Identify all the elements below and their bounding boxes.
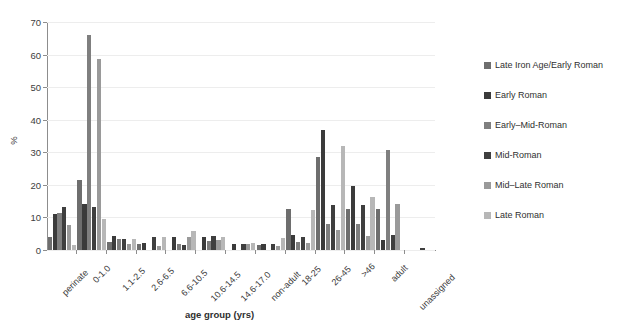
legend-item: Early Roman (484, 80, 630, 110)
x-label-cell: unassigned (405, 252, 435, 312)
bar (211, 236, 215, 250)
y-tick-mark (43, 250, 47, 251)
bar (127, 244, 131, 250)
y-tick-label: 40 (30, 114, 41, 125)
y-tick-label: 60 (30, 49, 41, 60)
y-tick-label: 10 (30, 212, 41, 223)
bar (386, 150, 390, 250)
legend-label: Early Roman (495, 90, 547, 100)
x-label-cell: 6.6-10.5 (166, 252, 196, 312)
x-axis-labels: perinate0-1.01.1-2.52.6-6.56.6-10.510.6-… (47, 252, 435, 312)
bar (391, 235, 395, 250)
bar (87, 35, 91, 250)
bar (276, 246, 280, 250)
bar (296, 242, 300, 250)
bar (142, 243, 146, 250)
legend-swatch (484, 92, 491, 99)
bar (53, 214, 57, 250)
bar (202, 237, 206, 250)
plot-area: 010203040506070 (47, 22, 435, 250)
bar-group (316, 22, 346, 250)
bar (137, 244, 141, 250)
legend-swatch (484, 182, 491, 189)
x-label-cell: 26-45 (316, 252, 346, 312)
bar (82, 204, 86, 250)
legend-label: Early–Mid-Roman (495, 120, 567, 130)
bar (381, 240, 385, 250)
legend-label: Late Iron Age/Early Roman (495, 60, 603, 70)
bar-group (256, 22, 286, 250)
bar (207, 241, 211, 250)
bar (152, 237, 156, 250)
legend-label: Mid–Late Roman (495, 180, 564, 190)
bar (376, 209, 380, 250)
bar (172, 237, 176, 250)
legend-item: Late Iron Age/Early Roman (484, 50, 630, 80)
bar (182, 245, 186, 250)
legend-swatch (484, 212, 491, 219)
y-tick-label: 0 (36, 245, 41, 256)
bar (162, 237, 166, 250)
bar (420, 248, 424, 250)
bar (157, 246, 161, 250)
bar (321, 130, 325, 250)
bar (341, 146, 345, 250)
y-tick-label: 70 (30, 17, 41, 28)
bar-group (77, 22, 107, 250)
bar-group (405, 22, 435, 250)
bar (57, 213, 61, 250)
bar (351, 186, 355, 250)
bar-group (166, 22, 196, 250)
bar (291, 235, 295, 250)
bar (62, 207, 66, 250)
legend-label: Mid-Roman (495, 150, 542, 160)
bar (336, 230, 340, 250)
bar (48, 237, 52, 250)
x-label-cell: non-adult (256, 252, 286, 312)
bar (191, 231, 195, 250)
y-tick-label: 30 (30, 147, 41, 158)
x-axis-title: age group (yrs) (185, 309, 254, 320)
y-axis-title: % (8, 136, 19, 144)
bar (177, 244, 181, 250)
legend-swatch (484, 122, 491, 129)
bar-groups (47, 22, 435, 250)
bar-group (345, 22, 375, 250)
bar (216, 240, 220, 250)
bar (331, 205, 335, 250)
legend-label: Late Roman (495, 210, 544, 220)
bar (286, 209, 290, 250)
bar (281, 238, 285, 250)
bar (395, 204, 399, 250)
bar-chart: % 010203040506070 perinate0-1.01.1-2.52.… (0, 0, 630, 332)
x-label-cell: 0-1.0 (77, 252, 107, 312)
bar-group (196, 22, 226, 250)
bar (361, 205, 365, 250)
bar (107, 242, 111, 250)
bar (77, 180, 81, 250)
legend-swatch (484, 152, 491, 159)
bar (246, 244, 250, 251)
legend-item: Mid-Roman (484, 140, 630, 170)
bar (122, 239, 126, 250)
bar (301, 237, 305, 250)
bar (370, 197, 374, 250)
legend-item: Early–Mid-Roman (484, 110, 630, 140)
x-label-cell: perinate (47, 252, 77, 312)
bar (241, 244, 245, 250)
bar (251, 243, 255, 250)
bar (311, 210, 315, 250)
bar (97, 59, 101, 250)
x-label-cell: 10.6-14.5 (196, 252, 226, 312)
bar (102, 219, 106, 250)
bar (316, 157, 320, 250)
bar (366, 236, 370, 250)
bar-group (375, 22, 405, 250)
legend-swatch (484, 62, 491, 69)
bar-group (286, 22, 316, 250)
bar (112, 236, 116, 250)
y-tick-label: 50 (30, 82, 41, 93)
bar (232, 244, 236, 250)
bar (326, 224, 330, 250)
x-label-cell: >46 (345, 252, 375, 312)
